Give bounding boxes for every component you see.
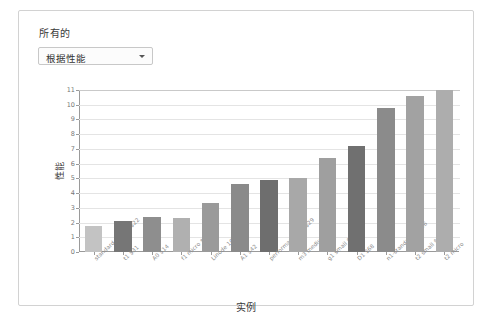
y-tick-mark	[76, 252, 79, 253]
bar[interactable]	[173, 218, 191, 252]
y-tick-label: 4	[71, 189, 75, 197]
bar[interactable]	[231, 184, 249, 252]
y-axis-title: 性能	[53, 162, 66, 180]
bar-chart-plot: 01234567891011 standard-xsmall $22t1 $31…	[79, 90, 459, 252]
chart-panel: 所有的 根据性能 性能 01234567891011 standard-xsma…	[18, 10, 474, 306]
bar-series: standard-xsmall $22t1 $31A0 $14f1 micro …	[79, 90, 459, 252]
bar[interactable]	[377, 108, 395, 252]
chevron-down-icon	[139, 55, 145, 58]
bar[interactable]	[114, 221, 132, 252]
y-tick-label: 3	[71, 204, 75, 212]
y-tick-label: 2	[71, 219, 75, 227]
bar[interactable]	[260, 180, 278, 252]
bar[interactable]	[289, 178, 307, 252]
bar[interactable]	[406, 96, 424, 252]
bar[interactable]	[348, 146, 366, 252]
y-tick-label: 6	[71, 160, 75, 168]
panel-title: 所有的	[39, 25, 71, 40]
y-tick-label: 1	[71, 233, 75, 241]
y-tick-label: 8	[71, 130, 75, 138]
bar[interactable]	[143, 217, 161, 252]
filter-dropdown[interactable]: 根据性能	[38, 47, 153, 65]
y-tick-label: 10	[67, 101, 75, 109]
bar[interactable]	[202, 203, 220, 252]
y-tick-label: 0	[71, 248, 75, 256]
x-axis-title: 实例	[19, 299, 473, 314]
y-tick-label: 5	[71, 174, 75, 182]
bar[interactable]	[436, 90, 454, 252]
y-tick-label: 7	[71, 145, 75, 153]
filter-dropdown-value: 根据性能	[46, 51, 86, 65]
bar[interactable]	[319, 158, 337, 252]
bar[interactable]	[85, 226, 103, 253]
y-tick-label: 11	[67, 86, 75, 94]
y-tick-label: 9	[71, 115, 75, 123]
